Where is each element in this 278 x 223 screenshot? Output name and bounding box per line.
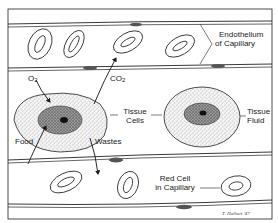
wastes-label: Wastes (95, 137, 121, 146)
tissue-cell-right (164, 87, 240, 147)
tissue-fluid-label-line2: Fluid (247, 116, 264, 125)
tissue-cells-label-line2: Cells (120, 116, 150, 125)
artist-signature: T. Halbert '47 (222, 211, 250, 216)
tissue-cells-label-line1: Tissue (120, 107, 150, 116)
endothelial-nucleus (130, 23, 142, 27)
endothelial-nucleus (176, 205, 192, 209)
endothelial-nucleus (109, 158, 123, 163)
endothelium-label-line2: of Capillary (215, 39, 255, 48)
endothelium-pointer (200, 24, 212, 64)
bottom-capillary (8, 152, 272, 209)
red-cell-label-line1: Red Cell (150, 174, 200, 183)
red-cells-top (23, 25, 198, 63)
capillary-tissue-diagram: Endothelium of Capillary O2 CO2 Tissue C… (0, 0, 278, 223)
food-label: Food (15, 137, 33, 146)
o2-label: O2 (28, 74, 38, 85)
endothelium-label-line1: Endothelium (219, 30, 263, 39)
endothelial-nucleus (83, 66, 97, 70)
co2-label: CO2 (110, 74, 125, 85)
endothelial-nucleus (211, 64, 225, 68)
tissue-fluid-label-line1: Tissue (247, 107, 270, 116)
red-cell-label-line2: in Capillary (150, 183, 200, 192)
